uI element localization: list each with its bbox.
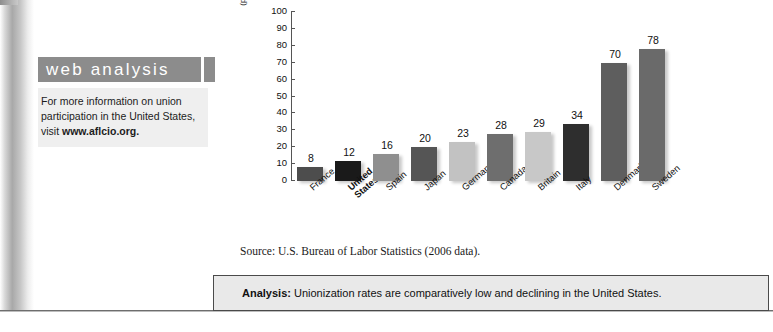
bar-value-label: 29: [524, 117, 554, 129]
web-analysis-title: web analysis: [46, 60, 170, 80]
bar: [639, 49, 665, 181]
unionization-rate-bar-chart: UNIONIZATION RATE (percent of civilian e…: [233, 6, 673, 238]
bar-value-label: 28: [486, 119, 516, 131]
y-tick-mark: [291, 180, 295, 181]
y-tick-label: 0: [235, 175, 287, 185]
web-analysis-sidebar: web analysis For more information on uni…: [38, 57, 213, 82]
textbook-page: web analysis For more information on uni…: [0, 0, 773, 332]
plot-area: 8France12UnitedStates16Spain20Japan23Ger…: [292, 11, 672, 181]
y-tick-mark: [291, 129, 295, 130]
y-tick-mark: [291, 45, 295, 46]
bar-group: 8France: [296, 11, 326, 181]
bar-value-label: 12: [334, 146, 364, 158]
web-analysis-body-line-1: For more information on union: [41, 95, 182, 107]
bar-value-label: 16: [372, 139, 402, 151]
bar: [563, 124, 589, 181]
bar-group: 16Spain: [372, 11, 402, 181]
web-analysis-body-line-2: participation in the United States,: [41, 110, 195, 122]
bar-group: 20Japan: [410, 11, 440, 181]
y-tick-label: 70: [235, 57, 287, 67]
y-tick-label: 30: [235, 124, 287, 134]
bar-value-label: 23: [448, 127, 478, 139]
book-spine-top-edge: [0, 0, 18, 5]
bar-group: 78Sweden: [638, 11, 668, 181]
bar-group: 70Denmark: [600, 11, 630, 181]
y-tick-mark: [291, 96, 295, 97]
analysis-callout-box: Analysis: Unionization rates are compara…: [213, 275, 769, 311]
y-tick-label: 50: [235, 91, 287, 101]
y-tick-mark: [291, 146, 295, 147]
y-tick-mark: [291, 62, 295, 63]
web-analysis-accent-square: [204, 57, 215, 82]
y-tick-mark: [291, 79, 295, 80]
y-tick-mark: [291, 163, 295, 164]
web-analysis-body: For more information on union participat…: [38, 88, 208, 147]
y-tick-label: 40: [235, 107, 287, 117]
aflcio-link[interactable]: www.aflcio.org.: [62, 125, 139, 137]
y-tick-label: 60: [235, 74, 287, 84]
web-analysis-header-band: web analysis: [38, 57, 201, 82]
y-tick-label: 100: [235, 6, 287, 16]
y-tick-label: 20: [235, 141, 287, 151]
analysis-body: Unionization rates are comparatively low…: [291, 287, 662, 299]
bar-group: 12UnitedStates: [334, 11, 364, 181]
page-bottom-rule-secondary: [0, 311, 773, 312]
bar-group: 23Germany: [448, 11, 478, 181]
bar-group: 28Canada: [486, 11, 516, 181]
analysis-text: Analysis: Unionization rates are compara…: [242, 287, 661, 299]
bar-value-label: 8: [296, 152, 326, 164]
bar-group: 34Italy: [562, 11, 592, 181]
source-note: Source: U.S. Bureau of Labor Statistics …: [240, 245, 480, 257]
book-spine-shadow: [0, 0, 34, 311]
y-tick-label: 80: [235, 40, 287, 50]
bar-group: 29Britain: [524, 11, 554, 181]
analysis-label: Analysis:: [242, 287, 291, 299]
bar-value-label: 34: [562, 109, 592, 121]
y-tick-mark: [291, 28, 295, 29]
y-tick-mark: [291, 112, 295, 113]
bar-value-label: 70: [600, 48, 630, 60]
y-axis-tick-labels: 1009080706050403020100: [233, 6, 287, 186]
web-analysis-body-line-3-prefix: visit: [41, 125, 62, 137]
y-tick-label: 90: [235, 23, 287, 33]
y-tick-mark: [291, 11, 295, 12]
bar-value-label: 78: [638, 34, 668, 46]
bar: [601, 63, 627, 181]
y-tick-label: 10: [235, 158, 287, 168]
bar-value-label: 20: [410, 132, 440, 144]
